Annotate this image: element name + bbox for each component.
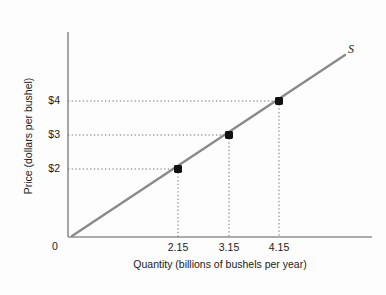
y-tick-label-2: $2 [30, 162, 60, 174]
x-tick-label-315: 3.15 [209, 241, 249, 253]
y-tick-label-4: $4 [30, 94, 60, 106]
x-tick-label-415: 4.15 [259, 241, 299, 253]
series-label-supply: S [348, 42, 354, 57]
y-tick-label-3: $3 [30, 128, 60, 140]
supply-curve-line [72, 55, 345, 236]
supply-curve-chart: S $4 $3 $2 2.15 3.15 4.15 0 Price (dolla… [0, 0, 386, 295]
data-point-marker [174, 165, 182, 173]
x-tick-label-215: 2.15 [158, 241, 198, 253]
data-point-marker [225, 131, 233, 139]
y-axis-title: Price (dollars per bushel) [22, 46, 34, 226]
data-point-marker [275, 97, 283, 105]
x-axis-title: Quantity (billions of bushels per year) [68, 258, 372, 270]
origin-label: 0 [52, 240, 58, 252]
